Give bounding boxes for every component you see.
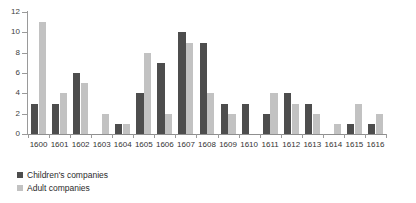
bar-1611-series-1 (270, 93, 277, 134)
plot-area (28, 12, 386, 134)
legend-item[interactable]: Children's companies (17, 168, 108, 181)
bar-1602-series-0 (73, 73, 80, 134)
bar-1613-series-0 (305, 104, 312, 135)
x-axis-tick-label: 1608 (196, 140, 217, 149)
x-axis-tick (154, 134, 155, 138)
x-axis-tick-label: 1611 (260, 140, 281, 149)
bar-1615-series-1 (355, 104, 362, 135)
bar-1612-series-0 (284, 93, 291, 134)
y-axis-tick-label: 2 (2, 110, 20, 118)
x-axis-tick (218, 134, 219, 138)
bar-1605-series-0 (136, 93, 143, 134)
x-axis-line (27, 134, 387, 135)
x-axis-tick (239, 134, 240, 138)
bar-1604-series-0 (115, 124, 122, 134)
bar-1604-series-1 (123, 124, 130, 134)
bar-1608-series-1 (207, 93, 214, 134)
bar-1608-series-0 (200, 43, 207, 135)
x-axis-tick (49, 134, 50, 138)
x-axis-tick (196, 134, 197, 138)
legend-item-label: Children's companies (27, 170, 108, 180)
bar-1600-series-1 (39, 22, 46, 134)
y-axis-tick-label: 6 (2, 69, 20, 77)
x-axis-tick-label: 1606 (154, 140, 175, 149)
x-axis-tick (175, 134, 176, 138)
bar-1602-series-1 (81, 83, 88, 134)
x-axis-tick (281, 134, 282, 138)
bar-1601-series-0 (52, 104, 59, 135)
bar-1600-series-0 (31, 104, 38, 135)
legend-item-label: Adult companies (27, 183, 90, 193)
legend-item[interactable]: Adult companies (17, 181, 108, 194)
x-axis-tick (302, 134, 303, 138)
bar-1601-series-1 (60, 93, 67, 134)
bar-chart: 024681012 160016011602160316041605160616… (0, 0, 416, 203)
bar-1610-series-0 (242, 104, 249, 135)
x-axis-tick-label: 1605 (133, 140, 154, 149)
x-axis-tick-label: 1609 (218, 140, 239, 149)
y-axis-tick-label: 10 (2, 28, 20, 36)
x-axis-tick (133, 134, 134, 138)
x-axis-tick-label: 1602 (70, 140, 91, 149)
y-axis-tick-label: 12 (2, 8, 20, 16)
bar-1614-series-1 (334, 124, 341, 134)
x-axis-tick (365, 134, 366, 138)
bar-1609-series-0 (221, 104, 228, 135)
x-axis-tick (112, 134, 113, 138)
x-axis-tick (91, 134, 92, 138)
x-axis-tick-label: 1612 (281, 140, 302, 149)
y-axis-tick-label: 0 (2, 130, 20, 138)
bar-1603-series-1 (102, 114, 109, 134)
x-axis-tick-label: 1607 (175, 140, 196, 149)
x-axis-tick-label: 1614 (323, 140, 344, 149)
x-axis-tick (323, 134, 324, 138)
bar-1607-series-1 (186, 43, 193, 135)
x-axis-tick-label: 1600 (28, 140, 49, 149)
x-axis-tick-label: 1601 (49, 140, 70, 149)
y-axis-tick-label: 8 (2, 49, 20, 57)
bar-1613-series-1 (313, 114, 320, 134)
legend-swatch-icon (17, 185, 23, 191)
x-axis-tick-label: 1603 (91, 140, 112, 149)
bar-1616-series-1 (376, 114, 383, 134)
x-axis-tick-label: 1610 (239, 140, 260, 149)
x-axis-tick (386, 134, 387, 138)
bar-1615-series-0 (347, 124, 354, 134)
bar-1606-series-1 (165, 114, 172, 134)
bar-1612-series-1 (292, 104, 299, 135)
x-axis-tick (344, 134, 345, 138)
x-axis-tick-label: 1616 (365, 140, 386, 149)
chart-legend: Children's companiesAdult companies (17, 168, 108, 194)
bar-1605-series-1 (144, 53, 151, 134)
bar-1611-series-0 (263, 114, 270, 134)
bar-1607-series-0 (178, 32, 185, 134)
x-axis-tick-label: 1604 (112, 140, 133, 149)
x-axis-tick-label: 1613 (302, 140, 323, 149)
x-axis-tick-label: 1615 (344, 140, 365, 149)
bar-1609-series-1 (228, 114, 235, 134)
y-axis-tick-label: 4 (2, 89, 20, 97)
legend-swatch-icon (17, 172, 23, 178)
bar-1606-series-0 (157, 63, 164, 134)
bar-1616-series-0 (368, 124, 375, 134)
x-axis-tick (70, 134, 71, 138)
x-axis-tick (28, 134, 29, 138)
x-axis-tick (260, 134, 261, 138)
